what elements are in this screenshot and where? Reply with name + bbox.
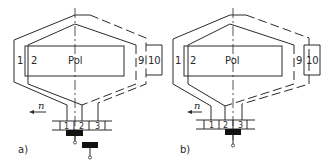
segment-2-a: 2 (79, 122, 84, 131)
rotation-label-a: n (38, 100, 44, 111)
arrowhead-icon-b (187, 110, 192, 114)
coil-commutator-figure: Pol 1 2 9 10 n 1 2 (0, 0, 331, 165)
brush-1-a (66, 130, 83, 136)
rotation-label-b: n (194, 100, 200, 111)
segment-3-a: 3 (95, 122, 100, 131)
coil-label-9-b: 9 (296, 55, 302, 66)
coil-label-2-b: 2 (190, 55, 196, 66)
brush-2-terminal-a (89, 156, 92, 159)
coil-2-left-a (28, 45, 82, 105)
segment-2-b: 2 (223, 121, 228, 130)
pole-label-b: Pol (225, 55, 240, 66)
commutator-b: 1 2 3 (196, 120, 255, 130)
coil-label-10-b: 10 (306, 55, 319, 66)
coil-label-1-b: 1 (175, 55, 181, 66)
brush-1-b (225, 129, 241, 135)
commutator-a: 1 2 3 (52, 121, 112, 131)
coil-label-9-a: 9 (138, 55, 144, 66)
diagram-b: Pol 1 2 9 10 n 1 2 3 (173, 8, 320, 155)
segment-1-a: 1 (64, 122, 69, 131)
brush-2-a (82, 142, 98, 148)
coil-2-right-a (82, 45, 136, 105)
brush-1-terminal-b (232, 144, 235, 147)
diagram-a: Pol 1 2 9 10 n 1 2 (14, 8, 162, 159)
coil-label-1-a: 1 (17, 55, 23, 66)
segment-3-b: 3 (238, 121, 243, 130)
caption-a: a) (18, 144, 28, 155)
brush-1-terminal-a (74, 141, 77, 144)
arrowhead-icon-a (29, 110, 34, 114)
segment-1-b: 1 (209, 121, 214, 130)
caption-b: b) (180, 144, 190, 155)
coil-label-10-a: 10 (148, 55, 161, 66)
coil-label-2-a: 2 (31, 55, 37, 66)
